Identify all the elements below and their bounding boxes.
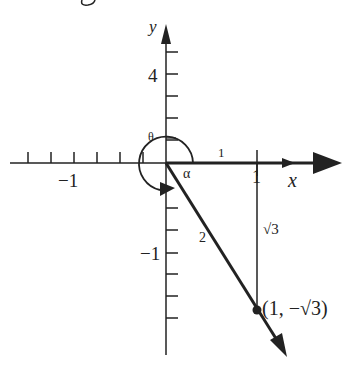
top-fragment-glyph [82, 0, 95, 5]
hypotenuse-length-label: 2 [199, 231, 206, 245]
x-axis-arrowhead [313, 152, 342, 174]
x-tick-label-1: 1 [252, 168, 261, 186]
horizontal-length-label: 1 [218, 146, 225, 159]
y-axis-ticks [166, 52, 178, 318]
x-axis-label: x [288, 170, 297, 190]
point-marker [253, 306, 262, 315]
theta-label: θ [148, 131, 154, 143]
x-axis-ticks [28, 152, 143, 163]
point-label: (1, −√3) [262, 298, 328, 318]
vertical-length-label: √3 [263, 222, 279, 237]
x-axis-mid-arrowhead [282, 158, 295, 168]
y-axis-arrowhead [161, 24, 171, 44]
theta-arc-arrowhead [160, 182, 175, 196]
terminal-ray-arrowhead [270, 333, 287, 357]
x-tick-label-neg1: −1 [58, 171, 78, 190]
y-tick-label-4: 4 [148, 66, 158, 85]
y-tick-label-neg1: −1 [140, 244, 160, 263]
y-axis-label: y [149, 18, 157, 35]
alpha-label: α [183, 167, 190, 181]
